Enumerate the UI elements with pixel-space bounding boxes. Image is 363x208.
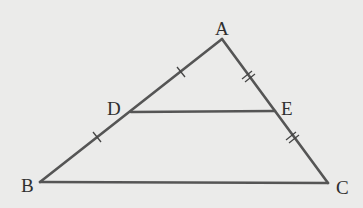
vertex-label-a: A [215,19,229,38]
vertex-label-b: B [21,176,34,195]
segment-bc [40,182,328,183]
triangle-diagram: A B C D E [0,0,363,208]
point-label-e: E [281,99,293,118]
point-label-d: D [107,99,121,118]
vertex-label-c: C [336,178,349,197]
diagram-svg [0,0,363,208]
segment-de [131,111,275,112]
